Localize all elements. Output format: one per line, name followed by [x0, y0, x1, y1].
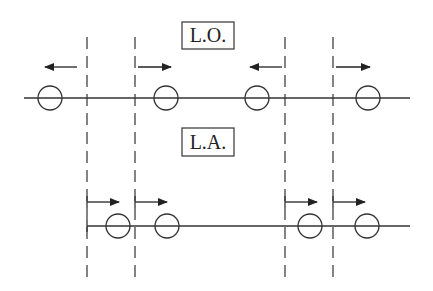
label-la: L.A. [190, 131, 227, 153]
label-lo-box: L.O. [182, 22, 234, 49]
bottom-arrows [87, 196, 365, 208]
top-row [24, 67, 410, 110]
dashed-boundary-lines [87, 37, 333, 282]
label-la-box: L.A. [182, 128, 234, 156]
label-lo: L.O. [190, 24, 227, 46]
diagram-canvas: L.O. L.A. [0, 0, 433, 291]
